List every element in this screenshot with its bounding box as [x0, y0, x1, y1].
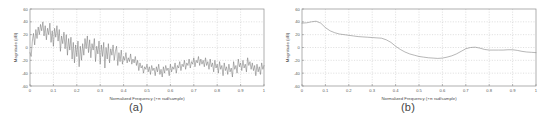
y-axis-title: Magnitude (dB): [13, 32, 18, 62]
y-axis-title: Magnitude (dB): [285, 32, 290, 62]
y-tick-label: -60: [294, 84, 301, 89]
panel-b: 00.10.20.30.40.50.60.70.80.91-60-40-2002…: [272, 0, 544, 127]
x-tick-label: 0.4: [393, 88, 399, 93]
plot-b-container: 00.10.20.30.40.50.60.70.80.91-60-40-2002…: [272, 0, 544, 104]
x-tick-label: 0.6: [168, 88, 174, 93]
chart-b-svg: 00.10.20.30.40.50.60.70.80.91-60-40-2002…: [272, 0, 544, 104]
x-tick-label: 0.7: [191, 88, 197, 93]
x-tick-label: 0.7: [463, 88, 469, 93]
x-tick-label: 0.3: [97, 88, 103, 93]
y-tick-label: 20: [23, 32, 28, 37]
y-tick-label: -40: [294, 71, 301, 76]
x-tick-label: 0: [301, 88, 304, 93]
x-tick-label: 0.6: [440, 88, 446, 93]
y-tick-label: -60: [22, 84, 29, 89]
x-tick-label: 0.5: [416, 88, 422, 93]
x-tick-label: 0.8: [486, 88, 492, 93]
x-tick-label: 0.1: [323, 88, 329, 93]
y-tick-label: 0: [298, 45, 301, 50]
y-tick-label: 0: [26, 45, 29, 50]
x-tick-label: 0.8: [214, 88, 220, 93]
x-axis-title: Normalized Frequency (×π rad/sample): [381, 96, 457, 101]
x-tick-label: 0: [29, 88, 32, 93]
data-series-0: [302, 21, 536, 58]
x-tick-label: 0.1: [51, 88, 57, 93]
y-tick-label: 40: [23, 19, 28, 24]
x-axis-title: Normalized Frequency (×π rad/sample): [109, 96, 185, 101]
y-tick-label: -20: [22, 58, 29, 63]
x-tick-label: 0.2: [346, 88, 352, 93]
y-tick-label: 60: [23, 7, 28, 12]
y-tick-label: 20: [295, 32, 300, 37]
caption-b: (b): [272, 101, 544, 113]
x-tick-label: 0.9: [510, 88, 516, 93]
chart-a-svg: 00.10.20.30.40.50.60.70.80.91-60-40-2002…: [0, 0, 272, 104]
y-tick-label: 40: [295, 19, 300, 24]
caption-a: (a): [0, 101, 272, 113]
x-tick-label: 0.3: [369, 88, 375, 93]
x-tick-label: 0.2: [74, 88, 80, 93]
x-tick-label: 0.4: [121, 88, 127, 93]
y-tick-label: 60: [295, 7, 300, 12]
figure-row: 00.10.20.30.40.50.60.70.80.91-60-40-2002…: [0, 0, 544, 127]
x-tick-label: 1: [535, 88, 538, 93]
y-tick-label: -20: [294, 58, 301, 63]
x-tick-label: 0.5: [144, 88, 150, 93]
panel-a: 00.10.20.30.40.50.60.70.80.91-60-40-2002…: [0, 0, 272, 127]
x-tick-label: 1: [263, 88, 266, 93]
x-tick-label: 0.9: [238, 88, 244, 93]
plot-a-container: 00.10.20.30.40.50.60.70.80.91-60-40-2002…: [0, 0, 272, 104]
y-tick-label: -40: [22, 71, 29, 76]
